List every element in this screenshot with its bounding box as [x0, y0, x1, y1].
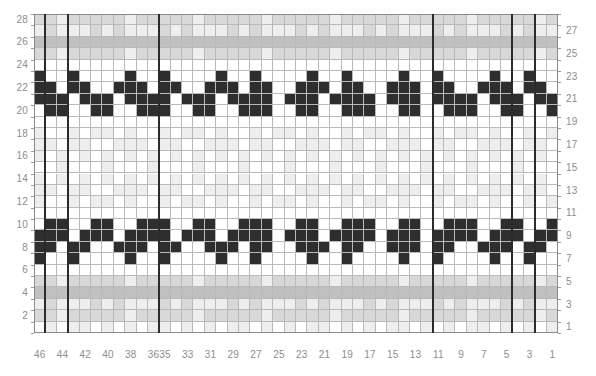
chart-cell[interactable]: [547, 230, 558, 241]
chart-cell[interactable]: [478, 310, 489, 321]
chart-cell[interactable]: [296, 14, 307, 25]
chart-cell[interactable]: [80, 71, 91, 82]
chart-cell[interactable]: [364, 185, 375, 196]
chart-cell[interactable]: [205, 196, 216, 207]
chart-cell[interactable]: [433, 162, 444, 173]
chart-cell[interactable]: [216, 299, 227, 310]
chart-cell[interactable]: [467, 162, 478, 173]
chart-cell[interactable]: [102, 322, 113, 333]
chart-cell[interactable]: [182, 265, 193, 276]
chart-cell[interactable]: [455, 196, 466, 207]
chart-cell[interactable]: [307, 151, 318, 162]
chart-cell[interactable]: [262, 174, 273, 185]
chart-cell[interactable]: [433, 276, 444, 287]
chart-cell[interactable]: [228, 208, 239, 219]
chart-cell[interactable]: [273, 208, 284, 219]
chart-cell[interactable]: [455, 322, 466, 333]
chart-cell[interactable]: [137, 82, 148, 93]
chart-cell[interactable]: [342, 174, 353, 185]
chart-cell[interactable]: [45, 48, 56, 59]
chart-cell[interactable]: [91, 230, 102, 241]
chart-cell[interactable]: [364, 299, 375, 310]
chart-cell[interactable]: [387, 94, 398, 105]
chart-cell[interactable]: [467, 151, 478, 162]
chart-cell[interactable]: [285, 60, 296, 71]
chart-cell[interactable]: [296, 185, 307, 196]
chart-cell[interactable]: [250, 219, 261, 230]
chart-cell[interactable]: [353, 71, 364, 82]
chart-cell[interactable]: [125, 128, 136, 139]
chart-cell[interactable]: [137, 242, 148, 253]
chart-cell[interactable]: [262, 94, 273, 105]
chart-cell[interactable]: [433, 299, 444, 310]
chart-cell[interactable]: [250, 287, 261, 298]
chart-cell[interactable]: [262, 310, 273, 321]
chart-cell[interactable]: [296, 276, 307, 287]
chart-cell[interactable]: [330, 162, 341, 173]
chart-cell[interactable]: [421, 105, 432, 116]
chart-cell[interactable]: [319, 174, 330, 185]
chart-cell[interactable]: [353, 265, 364, 276]
chart-cell[interactable]: [228, 219, 239, 230]
chart-cell[interactable]: [490, 322, 501, 333]
chart-cell[interactable]: [535, 37, 546, 48]
chart-cell[interactable]: [91, 196, 102, 207]
chart-cell[interactable]: [444, 322, 455, 333]
chart-cell[interactable]: [148, 105, 159, 116]
chart-cell[interactable]: [342, 322, 353, 333]
chart-cell[interactable]: [501, 208, 512, 219]
chart-cell[interactable]: [535, 71, 546, 82]
chart-cell[interactable]: [296, 139, 307, 150]
chart-cell[interactable]: [444, 310, 455, 321]
chart-cell[interactable]: [387, 174, 398, 185]
chart-cell[interactable]: [330, 242, 341, 253]
chart-cell[interactable]: [421, 162, 432, 173]
chart-cell[interactable]: [524, 82, 535, 93]
chart-cell[interactable]: [512, 276, 523, 287]
chart-cell[interactable]: [125, 219, 136, 230]
chart-cell[interactable]: [501, 299, 512, 310]
chart-cell[interactable]: [239, 151, 250, 162]
chart-cell[interactable]: [455, 60, 466, 71]
chart-cell[interactable]: [330, 151, 341, 162]
chart-cell[interactable]: [421, 94, 432, 105]
chart-cell[interactable]: [524, 151, 535, 162]
chart-cell[interactable]: [296, 71, 307, 82]
chart-cell[interactable]: [524, 128, 535, 139]
chart-cell[interactable]: [387, 139, 398, 150]
chart-cell[interactable]: [490, 196, 501, 207]
chart-cell[interactable]: [114, 37, 125, 48]
chart-cell[interactable]: [410, 48, 421, 59]
chart-cell[interactable]: [342, 253, 353, 264]
chart-cell[interactable]: [193, 128, 204, 139]
chart-cell[interactable]: [205, 219, 216, 230]
chart-cell[interactable]: [137, 94, 148, 105]
chart-cell[interactable]: [307, 14, 318, 25]
chart-cell[interactable]: [239, 14, 250, 25]
chart-cell[interactable]: [216, 128, 227, 139]
chart-cell[interactable]: [330, 14, 341, 25]
chart-cell[interactable]: [376, 48, 387, 59]
chart-cell[interactable]: [330, 60, 341, 71]
chart-cell[interactable]: [490, 162, 501, 173]
chart-cell[interactable]: [228, 174, 239, 185]
chart-cell[interactable]: [137, 139, 148, 150]
chart-cell[interactable]: [45, 117, 56, 128]
chart-cell[interactable]: [467, 299, 478, 310]
chart-cell[interactable]: [501, 60, 512, 71]
chart-cell[interactable]: [91, 128, 102, 139]
chart-cell[interactable]: [512, 82, 523, 93]
chart-cell[interactable]: [455, 105, 466, 116]
chart-cell[interactable]: [239, 94, 250, 105]
chart-cell[interactable]: [34, 105, 45, 116]
chart-cell[interactable]: [193, 219, 204, 230]
chart-cell[interactable]: [171, 287, 182, 298]
chart-cell[interactable]: [273, 287, 284, 298]
chart-cell[interactable]: [216, 242, 227, 253]
chart-cell[interactable]: [137, 60, 148, 71]
chart-cell[interactable]: [239, 299, 250, 310]
chart-cell[interactable]: [285, 71, 296, 82]
chart-cell[interactable]: [34, 60, 45, 71]
chart-cell[interactable]: [57, 219, 68, 230]
chart-cell[interactable]: [171, 322, 182, 333]
